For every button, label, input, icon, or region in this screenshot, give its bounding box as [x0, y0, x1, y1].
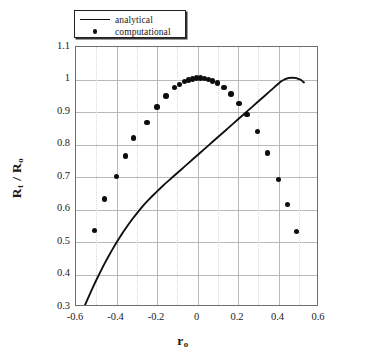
legend-dot-swatch-icon [78, 29, 112, 34]
legend-label-computational: computational [112, 27, 171, 37]
data-point-marker [154, 104, 159, 109]
legend-label-analytical: analytical [112, 15, 153, 25]
x-axis-tick-label: 0.6 [293, 311, 343, 322]
chart-legend: analytical computational [74, 10, 186, 38]
y-axis-tick-label: 0.3 [15, 301, 75, 312]
data-point-marker [163, 93, 168, 98]
data-point-marker [221, 85, 226, 90]
x-axis-title-text: ro [177, 333, 188, 348]
data-point-marker [144, 120, 149, 125]
y-axis-tick-label: 1 [15, 73, 75, 84]
y-axis-tick-label: 0.9 [15, 106, 75, 117]
analytical-curve [85, 78, 304, 305]
plot-inner [76, 47, 317, 305]
y-axis-title: Rt / Ro [5, 130, 29, 226]
data-point-marker [123, 153, 128, 158]
data-point-marker [244, 112, 249, 117]
data-point-marker [102, 196, 107, 201]
legend-item-computational: computational [78, 26, 181, 37]
y-axis-title-text: Rt / Ro [9, 158, 24, 198]
data-point-marker [177, 82, 182, 87]
x-axis-title: ro [0, 333, 366, 349]
y-axis-tick-label: 1.1 [15, 41, 75, 52]
analytical-curve-layer [76, 47, 317, 305]
legend-line-swatch-icon [78, 19, 112, 20]
data-point-marker [236, 101, 241, 106]
plot-area [75, 46, 318, 306]
y-axis-tick-label: 0.4 [15, 268, 75, 279]
chart-figure: analytical computational 0.30.40.50.60.7… [0, 0, 366, 363]
data-point-marker [265, 150, 270, 155]
data-point-marker [228, 91, 233, 96]
y-axis-tick-label: 0.5 [15, 236, 75, 247]
data-point-marker [255, 129, 260, 134]
legend-item-analytical: analytical [78, 14, 181, 25]
